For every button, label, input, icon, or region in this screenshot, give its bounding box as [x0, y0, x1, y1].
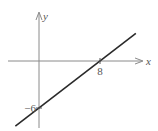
coordinate-plane: x y 8 −6 [0, 0, 158, 131]
x-axis-label: x [145, 55, 151, 67]
y-intercept-label: −6 [24, 102, 36, 114]
y-axis-label: y [42, 10, 48, 22]
x-intercept-label: 8 [97, 65, 103, 77]
